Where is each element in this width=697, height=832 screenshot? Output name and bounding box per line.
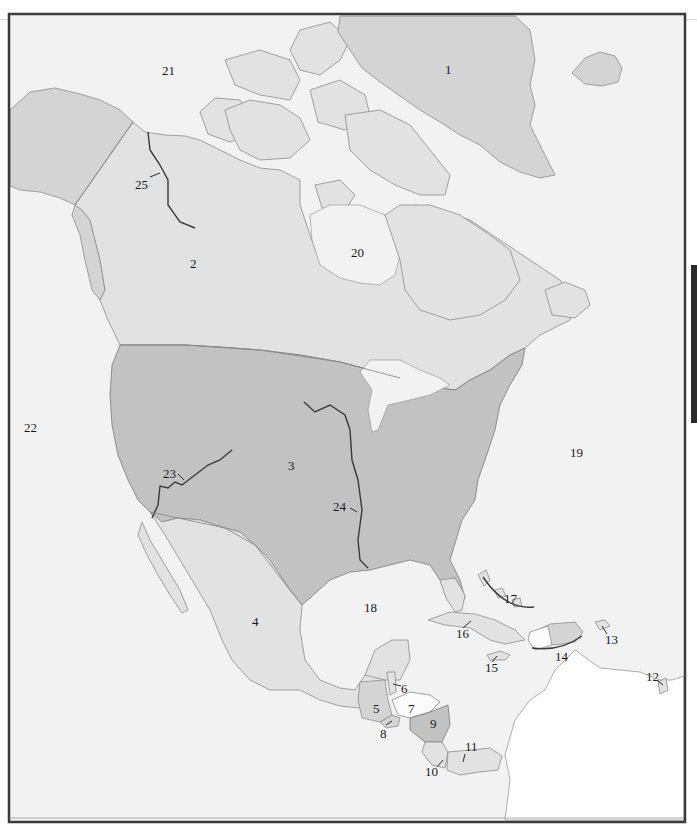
map-label-13: 13	[605, 632, 618, 647]
map-label-18: 18	[364, 600, 377, 615]
map-label-5: 5	[373, 701, 380, 716]
map-label-7: 7	[408, 701, 415, 716]
map-label-2: 2	[190, 256, 197, 271]
map-label-10: 10	[425, 764, 438, 779]
map-label-19: 19	[570, 445, 583, 460]
map-label-14: 14	[555, 649, 569, 664]
north-america-map: 1 2 3 4 5 6 7 8 9 10 11 12 13 14 15 16 1…	[0, 0, 697, 832]
map-label-8: 8	[380, 726, 387, 741]
map-label-17: 17	[504, 591, 518, 606]
map-label-23: 23	[163, 466, 176, 481]
map-label-24: 24	[333, 499, 347, 514]
map-label-11: 11	[465, 739, 478, 754]
map-label-4: 4	[252, 614, 259, 629]
map-label-16: 16	[456, 626, 470, 641]
map-label-9: 9	[430, 716, 437, 731]
side-tab-marker	[691, 265, 697, 423]
map-label-12: 12	[646, 669, 659, 684]
map-label-1: 1	[445, 62, 452, 77]
map-label-3: 3	[288, 458, 295, 473]
map-label-21: 21	[162, 63, 175, 78]
map-label-22: 22	[24, 420, 37, 435]
map-label-20: 20	[351, 245, 364, 260]
map-label-25: 25	[135, 177, 148, 192]
map-label-6: 6	[401, 681, 408, 696]
map-label-15: 15	[485, 660, 498, 675]
